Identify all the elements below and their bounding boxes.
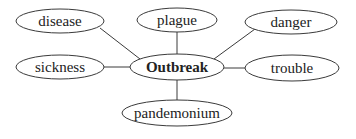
label-outbreak: Outbreak [146, 59, 209, 75]
node-disease: disease [16, 9, 104, 33]
edge-outbreak-danger [214, 29, 255, 59]
word-web-diagram: diseaseplaguedangersicknesstroublepandem… [0, 0, 356, 139]
node-sickness: sickness [16, 55, 104, 79]
label-disease: disease [38, 13, 82, 29]
label-plague: plague [157, 12, 197, 28]
label-trouble: trouble [271, 60, 314, 76]
center-node-outbreak: Outbreak [130, 54, 224, 80]
label-sickness: sickness [35, 59, 85, 75]
nodes: diseaseplaguedangersicknesstroublepandem… [16, 8, 339, 126]
node-danger: danger [245, 10, 337, 34]
label-danger: danger [271, 14, 312, 30]
node-plague: plague [137, 8, 217, 32]
node-trouble: trouble [245, 55, 339, 81]
node-pandemonium: pandemonium [122, 100, 232, 126]
label-pandemonium: pandemonium [134, 105, 220, 121]
edge-outbreak-disease [100, 28, 140, 59]
